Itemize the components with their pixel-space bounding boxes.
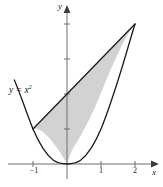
curve-equation-label: y = x2 <box>9 83 32 95</box>
x-tick-label-1: 1 <box>94 167 108 175</box>
curve-equation-exponent: 2 <box>29 83 32 90</box>
y-axis-arrow <box>64 5 71 13</box>
x-axis-label: x <box>152 168 156 177</box>
graph-figure: y x −1 1 2 y = x2 <box>0 0 163 187</box>
curve-equation-base: y = x <box>9 85 29 95</box>
y-axis-label: y <box>58 2 62 11</box>
shaded-region <box>33 24 135 164</box>
x-tick-label-neg1: −1 <box>26 167 42 175</box>
x-tick-label-2: 2 <box>128 167 142 175</box>
